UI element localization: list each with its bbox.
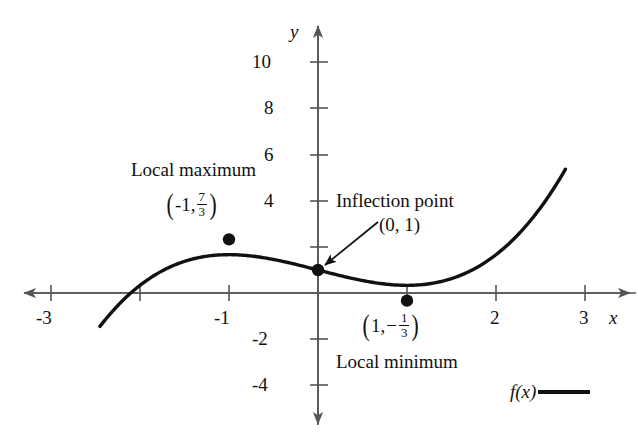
y-tick-label-minus2: -2 xyxy=(252,329,268,348)
y-tick-label-4: 4 xyxy=(264,191,274,210)
y-axis-ticks xyxy=(310,62,328,385)
inflection-point-label: Inflection point xyxy=(336,191,454,210)
local-maximum-label: Local maximum xyxy=(131,160,256,179)
y-tick-label-10: 10 xyxy=(252,52,271,71)
inflection-point xyxy=(312,264,324,276)
x-tick-label-minus1: -1 xyxy=(214,308,230,327)
x-tick-label-3: 3 xyxy=(579,308,589,327)
x-tick-label-minus3: -3 xyxy=(36,308,52,327)
y-axis-label: y xyxy=(290,22,298,41)
local-minimum-label: Local minimum xyxy=(336,352,458,371)
graph-figure: 10 8 6 4 -2 -4 -3 -1 2 3 y x Local maxim… xyxy=(0,0,638,433)
local-maximum-coordinates: ( -1, 7 3 ) xyxy=(165,190,218,218)
local-max-x-value: -1, xyxy=(175,195,196,214)
fraction-denominator: 3 xyxy=(399,325,410,340)
legend-line-swatch xyxy=(538,390,590,394)
fraction-denominator: 3 xyxy=(197,204,208,219)
inflection-leader-line xyxy=(325,222,378,265)
local-min-y-fraction: 1 3 xyxy=(399,311,410,339)
local-minimum-point xyxy=(401,294,413,306)
local-minimum-coordinates: ( 1, − 1 3 ) xyxy=(361,311,420,339)
legend: f(x) xyxy=(510,382,590,401)
fraction-numerator: 7 xyxy=(197,190,208,204)
left-paren-icon: ( xyxy=(166,192,173,215)
minus-sign-icon: − xyxy=(385,316,398,335)
x-tick-label-2: 2 xyxy=(490,308,500,327)
local-max-y-fraction: 7 3 xyxy=(197,190,208,218)
fraction-numerator: 1 xyxy=(399,311,410,325)
right-paren-icon: ) xyxy=(209,192,216,215)
local-min-x-value: 1, xyxy=(371,316,385,335)
y-tick-label-6: 6 xyxy=(264,145,274,164)
left-paren-icon: ( xyxy=(362,313,369,336)
legend-series-label: f(x) xyxy=(510,382,536,401)
right-paren-icon: ) xyxy=(412,313,419,336)
inflection-point-coordinates: (0, 1) xyxy=(379,215,420,234)
plot-canvas xyxy=(0,0,638,433)
local-maximum-point xyxy=(223,233,235,245)
y-tick-label-8: 8 xyxy=(264,98,274,117)
x-axis-label: x xyxy=(609,308,617,327)
y-tick-label-minus4: -4 xyxy=(252,375,268,394)
